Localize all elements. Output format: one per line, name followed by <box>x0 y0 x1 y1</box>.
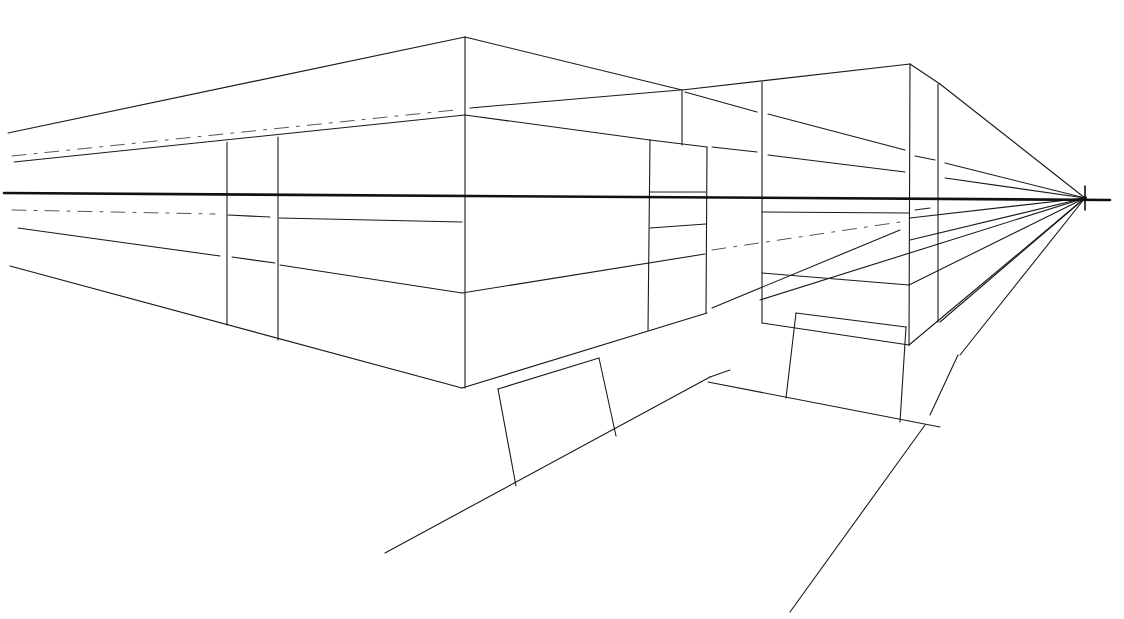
perspective-drawing <box>0 0 1124 619</box>
vanishing-point-marker <box>1083 196 1087 200</box>
